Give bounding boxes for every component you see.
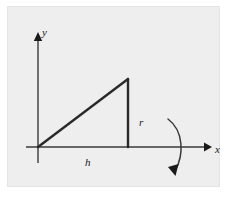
y-axis-arrowhead: [34, 32, 42, 41]
x-axis-arrowhead: [204, 143, 212, 152]
figure-root: y x h r: [0, 0, 233, 198]
triangle-hypotenuse: [38, 79, 128, 147]
rotation-arc-icon: [168, 119, 181, 171]
x-axis-label: x: [215, 144, 220, 155]
diagram-panel: y x h r: [8, 7, 219, 186]
y-axis-label: y: [42, 27, 47, 38]
diagram-canvas: [8, 7, 219, 186]
base-length-label: h: [85, 157, 91, 168]
radius-length-label: r: [139, 117, 143, 128]
rotation-arrowhead-icon: [168, 164, 179, 176]
